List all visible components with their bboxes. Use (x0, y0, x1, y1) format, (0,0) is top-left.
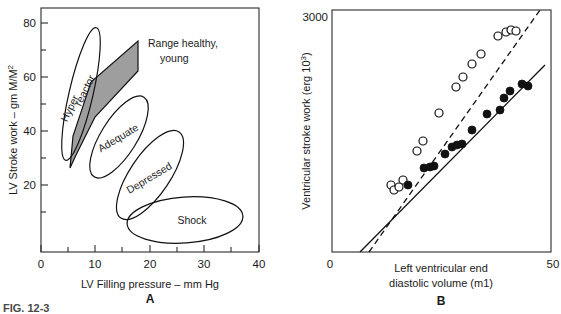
panel-a-ylabel: LV Stroke work – gm M/M (7, 69, 19, 195)
panel-a-ytick-60: 60 (23, 71, 36, 83)
panel-b-xtick-50: 50 (547, 258, 560, 270)
panel-b-xtick-0: 0 (327, 258, 333, 270)
svg-text:Ventricular stroke work (erg 1: Ventricular stroke work (erg 103) (299, 52, 312, 209)
panel-b-xlabel-line1: Left ventricular end (394, 262, 488, 274)
region-label-range-healthy: Range healthy, (148, 37, 218, 49)
panel-a-ylabel-group: LV Stroke work – gm M/M2 (6, 64, 19, 195)
figure-root: 80 60 40 20 0 10 20 30 40 L (0, 0, 561, 314)
panel-b-xlabel-line2: diastolic volume (m1) (389, 277, 493, 289)
panel-b-letter: B (437, 294, 446, 308)
panel-a-xtick-40: 40 (253, 258, 266, 270)
region-label-adequate: Adequate (96, 121, 141, 155)
panel-b-plot-frame (332, 10, 551, 252)
panel-a: 80 60 40 20 0 10 20 30 40 L (6, 8, 265, 306)
panel-b: 3000 0 50 Left ventricular end diastolic… (299, 10, 559, 308)
region-label-shock: Shock (177, 214, 207, 226)
panel-a-xtick-20: 20 (144, 258, 157, 270)
region-label-depressed: Depressed (124, 159, 174, 196)
panel-a-y-ticks (41, 23, 48, 212)
panel-a-ytick-40: 40 (23, 125, 36, 137)
panel-a-x-ticks (41, 245, 259, 252)
svg-text:LV Stroke work – gm M/M2: LV Stroke work – gm M/M2 (6, 64, 19, 195)
region-label-young: young (160, 52, 189, 64)
series-filled-circles (404, 80, 532, 189)
panel-a-xlabel: LV Filling pressure – mm Hg (81, 278, 219, 290)
panel-a-letter: A (146, 292, 155, 306)
panel-a-xtick-0: 0 (38, 258, 44, 270)
panel-a-xtick-30: 30 (198, 258, 211, 270)
fit-line-solid (360, 65, 545, 252)
panel-a-ylabel-superscript: 2 (6, 64, 15, 69)
figure-caption: FIG. 12-3 (3, 302, 49, 314)
panel-a-ytick-20: 20 (23, 179, 36, 191)
panel-a-xtick-10: 10 (89, 258, 102, 270)
panel-a-ytick-80: 80 (23, 17, 36, 29)
panel-b-ylabel: Ventricular stroke work (erg 10 (300, 60, 312, 209)
fit-line-dashed (369, 10, 540, 252)
panel-b-ylabel-close: ) (300, 52, 312, 56)
panel-b-ytick-3000: 3000 (302, 11, 328, 23)
panel-b-ylabel-group: Ventricular stroke work (erg 103) (299, 52, 312, 209)
figure-canvas: 80 60 40 20 0 10 20 30 40 L (0, 0, 561, 314)
